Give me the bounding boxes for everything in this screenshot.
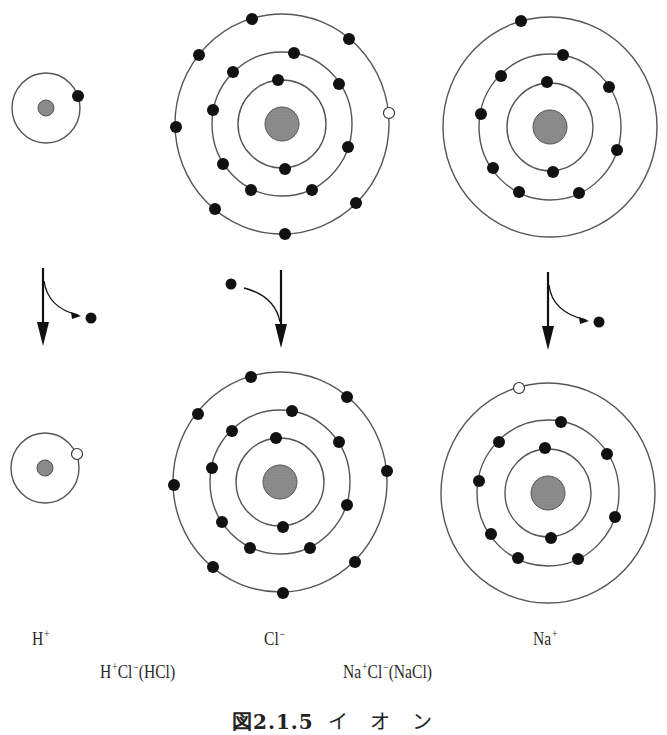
- electron: [573, 187, 585, 199]
- electron: [244, 542, 256, 554]
- na-atom: [443, 15, 657, 237]
- na-ion: [441, 383, 655, 604]
- electron: [513, 186, 525, 198]
- electron: [279, 163, 291, 175]
- electron-vacancy: [384, 108, 395, 119]
- electron: [226, 425, 238, 437]
- h-ion: [11, 433, 83, 503]
- electron: [277, 521, 289, 533]
- electron: [572, 553, 584, 565]
- electron: [288, 47, 300, 59]
- electron: [333, 78, 345, 90]
- electron: [306, 184, 318, 196]
- electron: [270, 432, 282, 444]
- figure-title: イ オ ン: [328, 710, 433, 734]
- nucleus: [263, 465, 297, 499]
- electron: [333, 436, 345, 448]
- electron: [277, 587, 289, 599]
- electron: [192, 408, 204, 420]
- small-arrowhead-icon: [579, 317, 589, 324]
- nucleus: [533, 110, 567, 144]
- electron: [217, 158, 229, 170]
- electron: [272, 74, 284, 86]
- label-h-ion: H+: [32, 628, 50, 648]
- label-hcl-formula: (HCl): [139, 661, 175, 682]
- label-na-ion: Na+: [533, 628, 558, 648]
- nucleus: [37, 460, 53, 476]
- label-hcl: H+Cl−(HCl): [100, 661, 175, 681]
- electron: [487, 162, 499, 174]
- electron: [286, 405, 298, 417]
- electron: [341, 391, 353, 403]
- label-nacl: Na+Cl−(NaCl): [343, 661, 432, 681]
- electron: [343, 33, 355, 45]
- electron-path-curve: [549, 285, 586, 320]
- transferred-electron: [86, 313, 97, 324]
- label-nacl-formula: (NaCl): [389, 661, 432, 682]
- electron: [512, 552, 524, 564]
- electron: [601, 448, 613, 460]
- electron: [381, 465, 393, 477]
- electron: [207, 561, 219, 573]
- label-hcl-h: H: [100, 661, 111, 682]
- electron: [545, 532, 557, 544]
- electron: [193, 49, 205, 61]
- electron: [515, 15, 527, 27]
- electron-path-curve: [44, 281, 78, 315]
- h-transition: [37, 268, 97, 346]
- electron-vacancy: [72, 449, 83, 460]
- figure-number: 図2.1.5: [232, 710, 314, 734]
- nucleus: [38, 100, 54, 116]
- electron: [485, 528, 497, 540]
- electron: [170, 121, 182, 133]
- electron: [206, 462, 218, 474]
- electron: [547, 166, 559, 178]
- label-cl-ion: Cl−: [264, 628, 285, 648]
- electron: [209, 203, 221, 215]
- label-nacl-cl: Cl: [368, 661, 383, 682]
- electron: [541, 76, 553, 88]
- electron: [341, 499, 353, 511]
- cl-transition: [226, 270, 288, 348]
- label-nacl-na: Na: [343, 661, 361, 682]
- small-arrowhead-icon: [71, 312, 81, 319]
- electron: [246, 13, 258, 25]
- electron: [227, 66, 239, 78]
- electron: [168, 479, 180, 491]
- electron: [603, 81, 615, 93]
- electron: [611, 144, 623, 156]
- electron: [279, 228, 291, 240]
- h-atom: [12, 73, 84, 143]
- label-na-ion-charge: +: [552, 627, 558, 641]
- electron: [495, 70, 507, 82]
- electron: [555, 416, 567, 428]
- cl-atom: [170, 13, 395, 240]
- na-transition: [542, 272, 605, 350]
- label-h-ion-charge: +: [44, 627, 50, 641]
- electron: [349, 556, 361, 568]
- cl-ion: [168, 371, 393, 599]
- nucleus: [265, 107, 299, 141]
- electron: [475, 108, 487, 120]
- label-h-ion-symbol: H: [32, 628, 43, 649]
- electron: [493, 436, 505, 448]
- electron: [245, 371, 257, 383]
- label-hcl-cl: Cl: [118, 661, 133, 682]
- electron: [609, 511, 621, 523]
- down-arrow-icon: [542, 326, 554, 350]
- electron: [342, 141, 354, 153]
- electron: [207, 104, 219, 116]
- label-cl-ion-symbol: Cl: [264, 628, 279, 649]
- transferred-electron: [594, 317, 605, 328]
- transferred-electron: [226, 279, 237, 290]
- electron: [72, 90, 84, 102]
- nucleus: [531, 476, 565, 510]
- electron: [539, 442, 551, 454]
- electron: [304, 542, 316, 554]
- figure-caption: 図2.1.5 イ オ ン: [232, 706, 433, 735]
- electron: [216, 516, 228, 528]
- down-arrow-icon: [275, 324, 287, 348]
- down-arrow-icon: [37, 322, 49, 346]
